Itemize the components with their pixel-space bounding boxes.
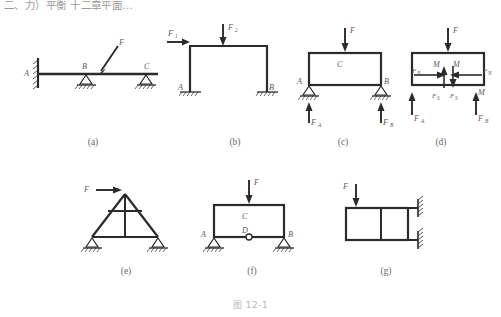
label-fn-left-sub-d: N: [416, 70, 421, 76]
diagram-panel-f: F C D: [196, 177, 314, 262]
label-fb-sub-c: B: [390, 122, 394, 128]
load-arrow-f-f: [246, 180, 253, 204]
support-a-f: [203, 238, 224, 252]
label-a-node: A: [23, 69, 30, 78]
label-fb-d: F: [477, 114, 484, 123]
panel-caption-a: (a): [73, 137, 113, 147]
closed-frame-c: [309, 53, 381, 85]
load-arrow-f-c: [342, 28, 349, 52]
load-arrow-f1-b: [167, 39, 190, 46]
label-c-node-c: C: [337, 60, 343, 69]
label-f-a: F: [118, 38, 125, 47]
figure-page: 二、力）平衡 十二章平面...: [0, 0, 501, 317]
load-arrow-f-g: [353, 184, 360, 207]
support-b: [75, 75, 96, 89]
fixed-wall-top-g: [418, 196, 423, 217]
support-b-f: [273, 238, 294, 252]
label-a-node-f: A: [200, 230, 207, 239]
label-fn-right-sub-d: N: [487, 70, 492, 76]
label-a-node-c: A: [296, 77, 303, 86]
label-f-f: F: [253, 178, 260, 187]
panel-caption-f: (f): [232, 266, 272, 276]
diagram-panel-a: F A B C: [18, 40, 166, 100]
support-a-c: [298, 86, 319, 100]
diagram-e-svg: F: [68, 180, 186, 262]
label-f-g: F: [342, 182, 349, 191]
panel-caption-d: (d): [421, 137, 461, 147]
figure-caption: 图 12-1: [0, 298, 501, 311]
label-f1-b: F: [167, 29, 174, 38]
support-right-e: [147, 238, 168, 252]
label-f2-sub-b: 2: [235, 27, 238, 33]
load-arrow-f2-b: [220, 24, 227, 46]
label-c-node-f: C: [242, 212, 248, 221]
support-b-c: [370, 86, 391, 100]
load-arrow-f-a: [99, 46, 118, 74]
label-f-c: F: [349, 26, 356, 35]
label-f-d: F: [452, 26, 459, 35]
truss-right-chord-e: [125, 194, 158, 237]
label-b-node-c: B: [384, 77, 389, 86]
panel-caption-c: (c): [323, 137, 363, 147]
support-left-e: [81, 238, 102, 252]
panel-caption-b: (b): [215, 137, 255, 147]
diagram-a-svg: F A B C: [18, 40, 166, 100]
diagram-f-svg: F C D: [196, 177, 314, 262]
label-d-node-f: D: [241, 226, 248, 235]
label-f1-sub-b: 1: [175, 33, 178, 39]
load-arrow-f-d: [445, 28, 452, 52]
label-fa-d: F: [413, 114, 420, 123]
panel-caption-e: (e): [106, 266, 146, 276]
free-body-frame-d: [412, 53, 484, 85]
normal-force-arrows-d: [414, 72, 482, 79]
closed-frame-f: [214, 205, 284, 237]
label-b-node: B: [82, 62, 87, 71]
label-b-node-f: B: [288, 230, 293, 239]
label-fb-sub-d: B: [485, 118, 489, 124]
label-a-node-b: A: [177, 83, 184, 92]
fixed-base-a-b: [179, 92, 201, 96]
diagram-b-svg: F 1 F 2 A B: [165, 22, 285, 107]
load-arrow-f-e: [96, 187, 122, 194]
truss-left-chord-e: [92, 194, 125, 237]
diagram-g-svg: F: [330, 180, 448, 260]
label-m-left-d: M: [432, 60, 441, 69]
label-m-right-lower-d: M: [477, 88, 486, 97]
label-c-node: C: [144, 62, 150, 71]
label-fa-c: F: [310, 118, 317, 127]
frame-rect-g: [346, 208, 408, 240]
fixed-base-b-b: [256, 92, 278, 96]
diagram-panel-d: F M M F N F N F S F: [398, 22, 501, 127]
label-fs-right-sub-d: S: [455, 95, 458, 101]
diagram-c-svg: F C: [295, 22, 400, 127]
fixed-wall-bottom-g: [418, 228, 423, 249]
label-fb-c: F: [382, 118, 389, 127]
panel-caption-g: (g): [366, 266, 406, 276]
page-header-text: 二、力）平衡 十二章平面...: [4, 0, 194, 11]
label-fa-sub-d: A: [420, 118, 425, 124]
label-f-e: F: [83, 185, 90, 194]
diagram-panel-g: F: [330, 180, 448, 260]
label-fs-left-sub-d: S: [437, 95, 440, 101]
diagram-panel-c: F C: [295, 22, 400, 127]
support-c: [135, 75, 156, 89]
label-f2-b: F: [227, 23, 234, 32]
diagram-panel-b: F 1 F 2 A B: [165, 22, 285, 107]
label-b-node-b: B: [269, 83, 274, 92]
diagram-d-svg: F M M F N F N F S F: [398, 22, 501, 127]
diagram-panel-e: F: [68, 180, 186, 262]
label-fa-sub-c: A: [317, 122, 322, 128]
reaction-arrow-fa-d: [409, 92, 416, 115]
